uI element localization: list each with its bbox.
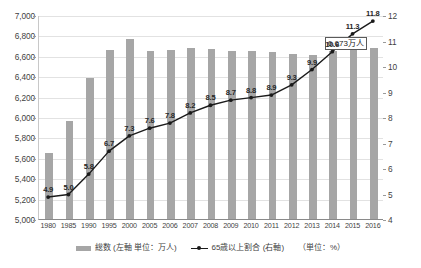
y-axis-left-tickmark bbox=[33, 57, 36, 58]
line-marker-2009 bbox=[229, 98, 233, 102]
x-axis-tick-2016: 2016 bbox=[363, 222, 383, 230]
line-marker-2005 bbox=[148, 126, 152, 130]
y-axis-left-tickmark bbox=[33, 98, 36, 99]
line-marker-2000 bbox=[127, 134, 131, 138]
line-marker-2006 bbox=[168, 121, 172, 125]
y-axis-right-tick: 12 bbox=[388, 12, 414, 20]
y-axis-left-tickmark bbox=[33, 179, 36, 180]
data-label-2005: 7.6 bbox=[139, 117, 161, 125]
line-marker-1995 bbox=[107, 149, 111, 153]
x-axis-tick-2013: 2013 bbox=[302, 222, 322, 230]
x-axis-tick-2007: 2007 bbox=[180, 222, 200, 230]
data-label-2012: 9.3 bbox=[281, 74, 303, 82]
x-axis-tick-1995: 1995 bbox=[99, 222, 119, 230]
line-marker-2016 bbox=[371, 19, 375, 23]
y-axis-right-tickmark bbox=[383, 93, 386, 94]
data-label-2014: 10.6 bbox=[321, 41, 343, 49]
line-marker-2012 bbox=[290, 83, 294, 87]
y-axis-right-tickmark bbox=[383, 42, 386, 43]
line-marker-1985 bbox=[67, 193, 71, 197]
line-marker-2010 bbox=[249, 96, 253, 100]
y-axis-left-tick: 5,400 bbox=[1, 175, 35, 183]
y-axis-right-tick: 9 bbox=[388, 89, 414, 97]
data-label-2008: 8.5 bbox=[200, 94, 222, 102]
legend-item-line: 65歳以上割合 (右軸) bbox=[191, 243, 284, 253]
data-label-2011: 8.9 bbox=[260, 84, 282, 92]
x-axis-tick-2011: 2011 bbox=[261, 222, 281, 230]
bar-swatch-icon bbox=[76, 246, 91, 251]
data-label-2009: 8.7 bbox=[220, 89, 242, 97]
y-axis-right-tick: 10 bbox=[388, 63, 414, 71]
data-label-2007: 8.2 bbox=[179, 102, 201, 110]
data-label-2013: 9.9 bbox=[301, 59, 323, 67]
y-axis-left-tickmark bbox=[33, 138, 36, 139]
chart-legend: 総数 (左軸 単位：万人) 65歳以上割合 (右軸) （単位：%） bbox=[0, 243, 421, 253]
x-axis-tick-2005: 2005 bbox=[139, 222, 159, 230]
legend-unit-note: （単位：%） bbox=[298, 243, 345, 253]
x-axis-tick-2006: 2006 bbox=[160, 222, 180, 230]
y-axis-left-tickmark bbox=[33, 118, 36, 119]
y-axis-right-tickmark bbox=[383, 220, 386, 221]
x-axis-tick-2008: 2008 bbox=[200, 222, 220, 230]
data-label-1980: 4.9 bbox=[37, 186, 59, 194]
y-axis-right-tickmark bbox=[383, 118, 386, 119]
line-marker-2013 bbox=[310, 68, 314, 72]
y-axis-left-tick: 5,800 bbox=[1, 134, 35, 142]
line-swatch-icon bbox=[191, 244, 208, 253]
legend-label-bar: 総数 (左軸 単位：万人) bbox=[95, 243, 177, 253]
x-axis-tick-2012: 2012 bbox=[282, 222, 302, 230]
y-axis-right-tick: 8 bbox=[388, 114, 414, 122]
y-axis-left-tick: 6,600 bbox=[1, 53, 35, 61]
y-axis-right-tickmark bbox=[383, 195, 386, 196]
line-marker-2007 bbox=[188, 111, 192, 115]
legend-label-line: 65歳以上割合 (右軸) bbox=[212, 243, 284, 253]
y-axis-right-tick: 5 bbox=[388, 191, 414, 199]
y-axis-left-tickmark bbox=[33, 77, 36, 78]
line-marker-1980 bbox=[46, 195, 50, 199]
x-axis-tick-2015: 2015 bbox=[342, 222, 362, 230]
y-axis-right-tickmark bbox=[383, 169, 386, 170]
line-marker-2015 bbox=[351, 32, 355, 36]
y-axis-left-tickmark bbox=[33, 16, 36, 17]
legend-label-unit: （単位：%） bbox=[298, 243, 345, 253]
line-marker-2011 bbox=[269, 93, 273, 97]
x-axis-tick-2009: 2009 bbox=[221, 222, 241, 230]
y-axis-left-tick: 6,400 bbox=[1, 73, 35, 81]
y-axis-left-tickmark bbox=[33, 220, 36, 221]
data-label-2010: 8.8 bbox=[240, 87, 262, 95]
y-axis-left-tickmark bbox=[33, 159, 36, 160]
y-axis-left-tick: 6,000 bbox=[1, 114, 35, 122]
line-marker-2008 bbox=[209, 103, 213, 107]
y-axis-left-tick: 5,000 bbox=[1, 216, 35, 224]
data-label-2015: 11.3 bbox=[342, 23, 364, 31]
y-axis-right-tick: 7 bbox=[388, 140, 414, 148]
y-axis-right-tickmark bbox=[383, 67, 386, 68]
y-axis-left-tick: 6,800 bbox=[1, 32, 35, 40]
data-label-2000: 7.3 bbox=[118, 125, 140, 133]
chart-container: 6,673万人 総数 (左軸 単位：万人) 65歳以上割合 (右軸) （単位：%… bbox=[0, 0, 421, 268]
y-axis-left-tickmark bbox=[33, 36, 36, 37]
y-axis-right-tick: 11 bbox=[388, 38, 414, 46]
x-axis-tick-1990: 1990 bbox=[79, 222, 99, 230]
y-axis-right-tickmark bbox=[383, 144, 386, 145]
line-marker-1990 bbox=[87, 172, 91, 176]
line-marker-2014 bbox=[330, 50, 334, 54]
y-axis-right-tick: 4 bbox=[388, 216, 414, 224]
y-axis-left-tick: 7,000 bbox=[1, 12, 35, 20]
y-axis-left-tickmark bbox=[33, 200, 36, 201]
y-axis-right-tick: 6 bbox=[388, 165, 414, 173]
legend-item-bar: 総数 (左軸 単位：万人) bbox=[76, 243, 177, 253]
x-axis-tick-1980: 1980 bbox=[38, 222, 58, 230]
x-axis-tick-1985: 1985 bbox=[58, 222, 78, 230]
data-label-1990: 5.8 bbox=[78, 163, 100, 171]
data-label-1995: 6.7 bbox=[98, 140, 120, 148]
y-axis-left-tick: 6,200 bbox=[1, 94, 35, 102]
data-label-2006: 7.8 bbox=[159, 112, 181, 120]
y-axis-left-tick: 5,200 bbox=[1, 196, 35, 204]
x-axis-tick-2014: 2014 bbox=[322, 222, 342, 230]
y-axis-left-tick: 5,600 bbox=[1, 155, 35, 163]
data-label-2016: 11.8 bbox=[362, 10, 384, 18]
x-axis-tick-2000: 2000 bbox=[119, 222, 139, 230]
data-label-1985: 5.0 bbox=[57, 184, 79, 192]
x-axis-tick-2010: 2010 bbox=[241, 222, 261, 230]
